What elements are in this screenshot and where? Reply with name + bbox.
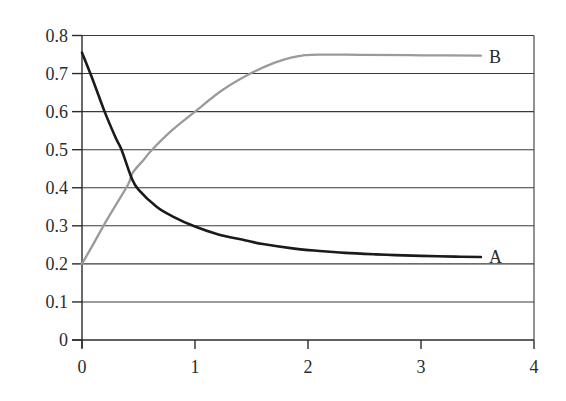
y-tick-label: 0.1 [46,292,69,312]
y-tick-label: 0.7 [46,64,69,84]
y-tick-label: 0.5 [46,140,69,160]
y-tick-label: 0.2 [46,254,69,274]
y-tick-label: 0 [59,330,68,350]
x-tick-label: 2 [304,357,313,377]
y-tick-label: 0.6 [46,102,69,122]
series-label-b: B [489,47,501,67]
x-tick-label: 4 [530,357,539,377]
line-chart: 00.10.20.30.40.50.60.70.801234 B A [0,0,566,401]
x-tick-label: 1 [191,357,200,377]
chart-canvas: 00.10.20.30.40.50.60.70.801234 B A [0,0,566,401]
x-tick-label: 3 [417,357,426,377]
series-labels: B A [489,47,502,267]
y-tick-label: 0.4 [46,178,69,198]
tick-labels: 00.10.20.30.40.50.60.70.801234 [46,26,539,378]
y-tick-label: 0.8 [46,26,69,46]
series-line-a [82,53,481,257]
series-label-a: A [489,247,502,267]
y-tick-label: 0.3 [46,216,69,236]
series-line-b [82,55,481,264]
x-tick-label: 0 [78,357,87,377]
gridlines [82,36,534,341]
series-lines [82,53,481,264]
